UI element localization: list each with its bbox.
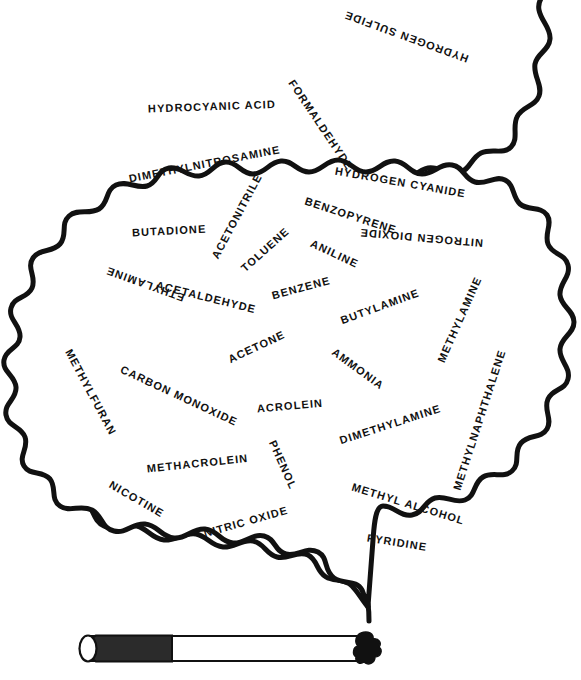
cigarette-graphic (0, 0, 581, 680)
cigarette-filter (87, 636, 172, 662)
cigarette-ember-tip (354, 632, 382, 664)
smoke-stem (368, 604, 369, 621)
smoke-diagram-canvas: HYDROCYANIC ACIDFORMALDEHYDEHYDROGEN SUL… (0, 0, 581, 680)
cigarette-mouth-end (80, 636, 97, 662)
